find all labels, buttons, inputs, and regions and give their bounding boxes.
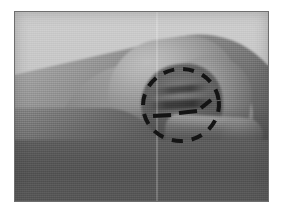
photo-frame bbox=[14, 11, 269, 202]
photograph bbox=[15, 12, 268, 201]
page-canvas bbox=[0, 0, 282, 209]
lower-dark-band bbox=[15, 140, 268, 201]
